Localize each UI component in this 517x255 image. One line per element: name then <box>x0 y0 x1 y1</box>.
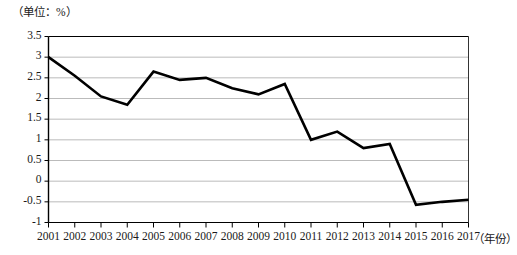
y-tick-label: 1 <box>36 132 42 144</box>
x-axis-title: （年份） <box>473 230 517 246</box>
y-tick-label: 2.5 <box>27 70 41 82</box>
plot-frame <box>49 37 469 223</box>
gridlines <box>49 37 469 223</box>
y-tick-label: 1.5 <box>27 111 41 123</box>
y-tick-label: 3 <box>36 49 42 61</box>
y-tick-label: -0.5 <box>23 194 41 206</box>
y-tick-label: 0 <box>36 173 42 185</box>
y-tick-label: 3.5 <box>27 29 41 41</box>
line-chart-plot <box>0 0 517 255</box>
y-tick-label: 0.5 <box>27 153 41 165</box>
y-tick-label: -1 <box>32 215 42 227</box>
x-axis-ticks <box>49 223 469 228</box>
y-tick-label: 2 <box>36 91 42 103</box>
chart-figure: （单位：%） 3.532.521.510.50-0.5-1 2001200220… <box>0 0 517 255</box>
data-series-line <box>49 57 469 205</box>
